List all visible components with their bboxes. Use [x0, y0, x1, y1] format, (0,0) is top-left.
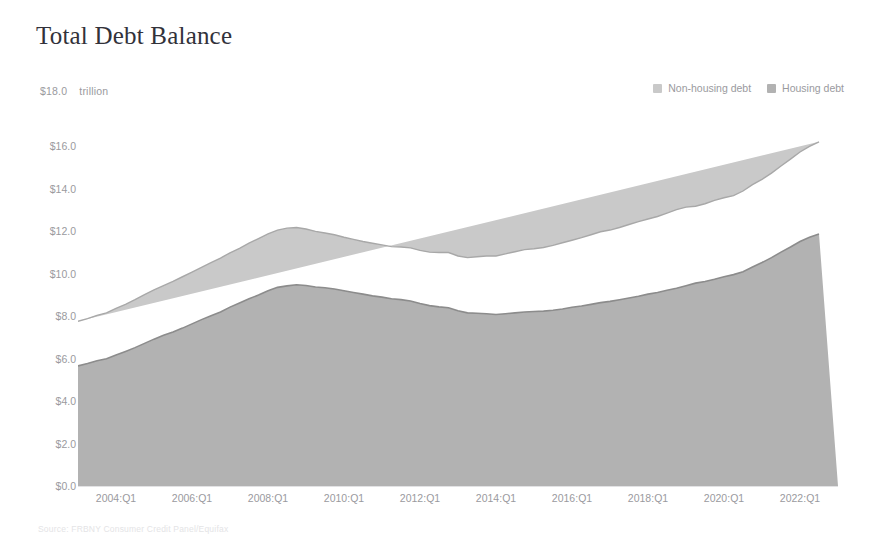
plot-area: [78, 104, 838, 486]
legend-item-label: Housing debt: [782, 82, 844, 94]
x-axis: 2004:Q12006:Q12008:Q12010:Q12012:Q12014:…: [78, 492, 838, 508]
x-axis-tick-label: 2022:Q1: [780, 492, 820, 504]
legend-item-label: Non-housing debt: [668, 82, 751, 94]
legend-item[interactable]: Housing debt: [767, 82, 844, 94]
x-axis-tick-label: 2006:Q1: [172, 492, 212, 504]
y-axis-tick-label: $10.0: [50, 268, 76, 280]
y-axis-tick-label: $0.0: [56, 480, 76, 492]
y-axis-unit-row: $18.0 trillion: [40, 85, 108, 97]
y-axis-tick-label: $2.0: [56, 438, 76, 450]
legend-swatch-icon: [653, 84, 662, 93]
y-axis-tick-label: $12.0: [50, 225, 76, 237]
x-axis-tick-label: 2020:Q1: [704, 492, 744, 504]
y-axis-tick-label: $8.0: [56, 310, 76, 322]
x-axis-tick-label: 2008:Q1: [248, 492, 288, 504]
legend-item[interactable]: Non-housing debt: [653, 82, 751, 94]
chart-card: Total Debt Balance $18.0 trillion Non-ho…: [0, 0, 886, 557]
y-axis-top-tick-label: $18.0: [40, 85, 67, 97]
page-title: Total Debt Balance: [36, 22, 232, 50]
y-axis-tick-label: $14.0: [50, 183, 76, 195]
x-axis-tick-label: 2010:Q1: [324, 492, 364, 504]
x-axis-tick-label: 2014:Q1: [476, 492, 516, 504]
chart-legend: Non-housing debtHousing debt: [653, 82, 844, 94]
x-axis-baseline: [78, 486, 838, 487]
x-axis-tick-label: 2004:Q1: [96, 492, 136, 504]
y-axis-tick-label: $4.0: [56, 395, 76, 407]
x-axis-tick-label: 2016:Q1: [552, 492, 592, 504]
x-axis-tick-label: 2018:Q1: [628, 492, 668, 504]
stacked-area-chart: [78, 104, 838, 486]
legend-swatch-icon: [767, 84, 776, 93]
x-axis-tick-label: 2012:Q1: [400, 492, 440, 504]
y-axis-tick-label: $16.0: [50, 140, 76, 152]
y-axis-unit-label: trillion: [79, 85, 108, 97]
y-axis-tick-label: $6.0: [56, 353, 76, 365]
source-note: Source: FRBNY Consumer Credit Panel/Equi…: [38, 524, 228, 534]
y-axis: $16.0$14.0$12.0$10.0$8.0$6.0$4.0$2.0$0.0: [36, 104, 76, 486]
